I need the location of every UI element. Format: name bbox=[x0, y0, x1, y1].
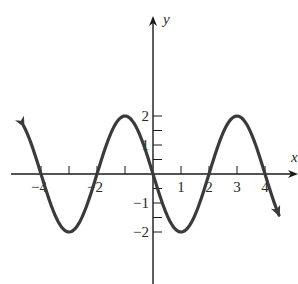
y-tick-label: −2 bbox=[133, 224, 149, 240]
x-tick-label: 3 bbox=[233, 179, 241, 195]
y-axis-label: y bbox=[161, 11, 170, 27]
x-axis-tick-labels: −4−21234 bbox=[31, 179, 269, 195]
y-tick-label: −1 bbox=[133, 195, 149, 211]
x-tick-label: 1 bbox=[177, 179, 185, 195]
x-axis-label: x bbox=[290, 149, 298, 165]
sinusoid-graph: −4−21234 21−1−2 y x bbox=[0, 0, 298, 284]
y-tick-label: 2 bbox=[142, 108, 150, 124]
